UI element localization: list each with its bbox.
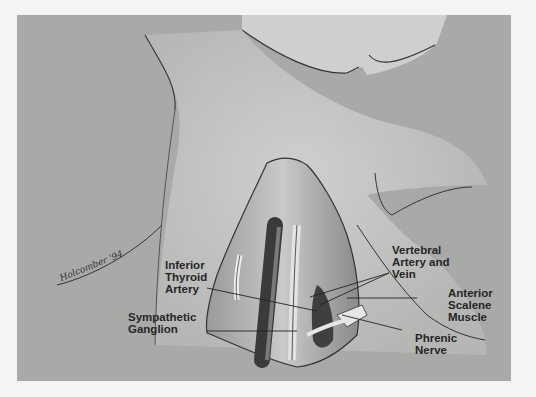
label-sympathetic-ganglion: Sympathetic Ganglion [128,311,196,335]
illustration-drawing [17,15,511,381]
label-phrenic-nerve: Phrenic Nerve [415,332,457,356]
label-anterior-scalene-muscle: Anterior Scalene Muscle [448,287,493,323]
anatomical-illustration: Inferior Thyroid Artery Sympathetic Gang… [17,15,511,381]
label-vertebral-artery-vein: Vertebral Artery and Vein [392,244,450,280]
label-inferior-thyroid-artery: Inferior Thyroid Artery [165,259,207,295]
